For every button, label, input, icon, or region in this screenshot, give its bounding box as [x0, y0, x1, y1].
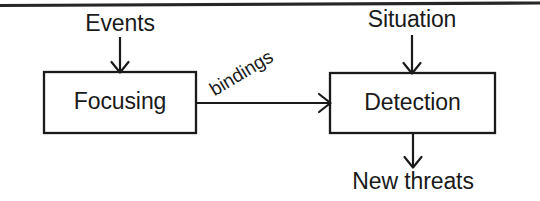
- situation-to-detection-arrow: [404, 35, 421, 74]
- detection-node-label: Detection: [330, 91, 495, 114]
- situation-input-label: Situation: [332, 8, 492, 31]
- new-threats-output-label: New threats: [333, 170, 493, 193]
- events-to-focusing-arrow: [112, 37, 129, 73]
- page-top-rule: [0, 3, 540, 6]
- focusing-node-label: Focusing: [44, 90, 196, 113]
- events-input-label: Events: [40, 12, 200, 35]
- flow-diagram: Focusing Detection Events Situation New …: [0, 0, 540, 201]
- detection-to-new-threats-arrow: [405, 133, 422, 168]
